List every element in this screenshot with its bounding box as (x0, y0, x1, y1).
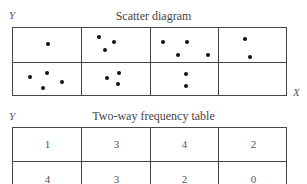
table-cell: 0 (219, 173, 288, 184)
scatter-point (46, 42, 50, 46)
table-cell: 2 (219, 138, 288, 150)
scatter-point (161, 40, 165, 44)
scatter-point (103, 48, 107, 52)
scatter-point (60, 80, 64, 84)
scatter-point (105, 76, 109, 80)
scatter-point (206, 53, 210, 57)
table-cell: 4 (150, 138, 219, 150)
scatter-point (41, 86, 45, 90)
scatter-point (184, 84, 188, 88)
scatter-title: Scatter diagram (0, 9, 307, 24)
table-cell: 3 (82, 138, 151, 150)
scatter-point (117, 71, 121, 75)
scatter-point (184, 72, 188, 76)
table-divider (13, 161, 286, 162)
grid-divider (13, 62, 286, 63)
frequency-table: 1 3 4 2 4 3 2 0 (12, 127, 287, 184)
scatter-x-axis-label: X (293, 86, 300, 98)
table-title: Two-way frequency table (0, 109, 307, 124)
scatter-point (116, 82, 120, 86)
scatter-point (176, 53, 180, 57)
scatter-point (112, 40, 116, 44)
table-cell: 2 (150, 173, 219, 184)
scatter-point (97, 35, 101, 39)
scatter-point (28, 75, 32, 79)
scatter-point (185, 40, 189, 44)
table-cell: 4 (13, 173, 82, 184)
scatter-point (248, 55, 252, 59)
table-cell: 3 (82, 173, 151, 184)
scatter-point (45, 71, 49, 75)
scatter-point (243, 37, 247, 41)
table-cell: 1 (13, 138, 82, 150)
